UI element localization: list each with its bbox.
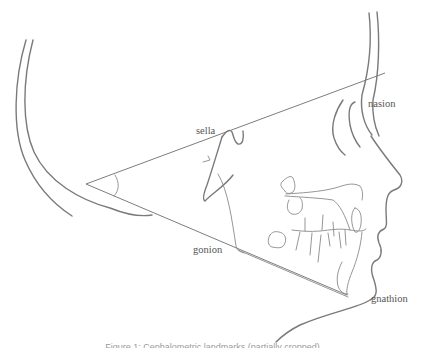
lower-teeth [296, 232, 341, 262]
figure-caption: Figure 1: Cephalometric landmarks (parti… [0, 341, 425, 348]
gnathion-label: gnathion [371, 294, 408, 305]
lower-molar [268, 232, 285, 248]
cephalometric-diagram [0, 0, 425, 348]
sella-nasion-ray [86, 73, 385, 184]
mandibular-plane-line [238, 250, 348, 297]
upper-molar [287, 198, 302, 214]
palatal-plane [286, 184, 363, 200]
incisor-upper [352, 208, 362, 232]
lower-incisor [347, 232, 362, 295]
palate-lower [285, 196, 350, 230]
frontal-bone-inner [373, 12, 379, 136]
gonion-label: gonion [193, 245, 222, 256]
sella-turcica [222, 130, 243, 144]
sella-label: sella [196, 126, 215, 137]
angle-arc [114, 175, 118, 196]
clivus-tick [203, 156, 210, 162]
frontal-bone-outer [361, 13, 372, 135]
symphysis [337, 262, 348, 294]
orbit-curve [333, 100, 345, 155]
gonion-gnathion-ray [86, 184, 347, 295]
soft-tissue-profile [276, 136, 402, 342]
clivus-line [204, 137, 233, 201]
nasion-label: nasion [368, 99, 395, 110]
occlusal-line [292, 229, 366, 231]
maxilla-outline [281, 177, 295, 194]
skull-outline-inner [25, 40, 152, 216]
nasion-loop [349, 102, 360, 147]
skull-outline-outer [16, 40, 72, 216]
